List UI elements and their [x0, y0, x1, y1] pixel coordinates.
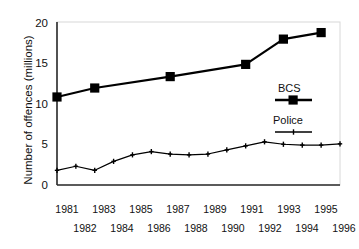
x-tick-label-1986: 1986 [138, 222, 180, 234]
data-point-bcs-1995 [317, 28, 326, 37]
legend-label-bcs: BCS [278, 82, 301, 94]
x-tick-label-1988: 1988 [175, 222, 217, 234]
data-point-bcs-1987 [166, 72, 175, 81]
x-tick-label-1984: 1984 [101, 222, 143, 234]
legend-label-police: Police [273, 114, 303, 126]
legend-marker-bcs [289, 95, 298, 104]
x-tick-label-1994: 1994 [286, 222, 328, 234]
x-tick-label-1996: 1996 [323, 222, 359, 234]
x-tick-label-1990: 1990 [212, 222, 254, 234]
x-tick-label-1991: 1991 [231, 203, 273, 215]
x-tick-label-1989: 1989 [194, 203, 236, 215]
x-tick-label-1987: 1987 [157, 203, 199, 215]
offences-line-chart: Number of offences (millions) 20 15 10 5… [0, 0, 359, 249]
data-point-bcs-1983 [90, 83, 99, 92]
x-tick-label-1995: 1995 [305, 203, 347, 215]
data-point-bcs-1991 [241, 60, 250, 69]
x-tick-label-1982: 1982 [64, 222, 106, 234]
x-tick-label-1992: 1992 [249, 222, 291, 234]
x-tick-label-1983: 1983 [83, 203, 125, 215]
data-point-bcs-1993 [279, 35, 288, 44]
x-tick-label-1985: 1985 [120, 203, 162, 215]
x-tick-label-1981: 1981 [46, 203, 88, 215]
x-tick-label-1993: 1993 [268, 203, 310, 215]
data-point-bcs-1981 [52, 92, 61, 101]
